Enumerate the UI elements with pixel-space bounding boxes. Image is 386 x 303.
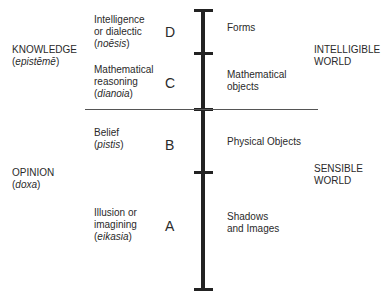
faculty-noesis: Intelligence or dialectic (noēsis) — [94, 14, 145, 50]
faculty-eikasia: Illusion or imagining (eikasia) — [94, 207, 137, 243]
category-opinion: OPINION (doxa) — [12, 167, 54, 191]
faculty-dianoia: Mathematical reasoning (dianoia) — [94, 64, 153, 100]
segment-letter-b: B — [165, 137, 174, 153]
category-knowledge: KNOWLEDGE (epistēmē) — [12, 44, 77, 68]
segment-letter-d: D — [165, 24, 175, 40]
segment-letter-c: C — [165, 75, 175, 91]
segment-letter-a: A — [165, 218, 174, 234]
line-cap-bottom — [194, 288, 213, 291]
world-intelligible: INTELLIGIBLE WORLD — [314, 44, 380, 68]
faculty-pistis: Belief (pistis) — [94, 127, 123, 151]
object-mathematical: Mathematical objects — [227, 69, 286, 93]
object-physical: Physical Objects — [227, 136, 301, 148]
world-sensible: SENSIBLE WORLD — [314, 163, 363, 187]
object-forms: Forms — [227, 22, 255, 34]
line-cap-top — [194, 9, 213, 12]
line-tick-ba — [194, 171, 213, 174]
line-tick-dc — [194, 52, 213, 55]
object-shadows-images: Shadows and Images — [227, 211, 279, 235]
knowledge-opinion-divider — [85, 109, 318, 110]
